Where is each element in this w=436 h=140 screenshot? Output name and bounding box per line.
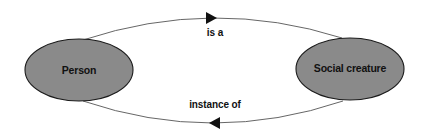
- edge-is-a: is a: [83, 12, 342, 40]
- node-person: Person: [25, 39, 133, 101]
- node-person-label: Person: [62, 64, 96, 76]
- arrow-right-icon: [206, 12, 217, 24]
- edge-instance-of: instance of: [83, 99, 343, 129]
- arrow-left-icon: [209, 117, 220, 129]
- node-social-creature-label: Social creature: [314, 62, 387, 74]
- concept-diagram: is a instance of Person Social creature: [0, 0, 436, 140]
- edge-label-instance-of: instance of: [189, 99, 241, 110]
- node-social-creature: Social creature: [296, 38, 404, 100]
- edge-label-is-a: is a: [207, 27, 224, 38]
